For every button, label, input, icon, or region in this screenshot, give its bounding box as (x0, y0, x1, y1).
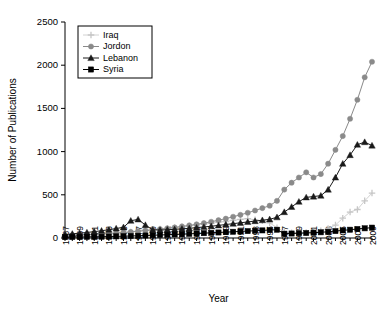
data-point-marker (187, 231, 192, 236)
data-point-marker (77, 234, 82, 239)
data-point-marker (281, 209, 288, 215)
data-point-marker (62, 235, 67, 240)
data-point-marker (260, 206, 265, 211)
data-point-marker (106, 234, 111, 239)
data-point-marker (88, 44, 93, 49)
data-point-marker (288, 204, 295, 210)
legend-label-jordon: Jordon (103, 41, 131, 51)
data-point-marker (172, 232, 177, 237)
data-point-marker (238, 212, 243, 217)
data-point-marker (143, 228, 148, 233)
data-point-marker (311, 175, 316, 180)
data-point-marker (223, 216, 228, 221)
data-point-marker (157, 232, 162, 237)
data-point-marker (252, 228, 257, 233)
data-point-marker (369, 142, 376, 148)
data-point-marker (304, 170, 309, 175)
y-axis-tick-label: 0 (53, 232, 58, 243)
data-point-marker (282, 187, 287, 192)
data-point-marker (231, 214, 236, 219)
data-point-marker (289, 180, 294, 185)
data-point-marker (260, 228, 265, 233)
publications-line-chart: 05001000150020002500Number of Publicatio… (0, 0, 381, 310)
data-point-marker (369, 59, 374, 64)
data-point-marker (311, 230, 316, 235)
data-point-marker (223, 230, 228, 235)
data-point-marker (333, 228, 338, 233)
data-point-marker (121, 234, 126, 239)
data-point-marker (194, 231, 199, 236)
data-point-marker (209, 230, 214, 235)
data-point-marker (165, 232, 170, 237)
data-point-marker (355, 226, 360, 231)
data-point-marker (296, 175, 301, 180)
series-line (65, 62, 372, 236)
data-point-marker (150, 233, 155, 238)
data-point-marker (88, 67, 93, 72)
y-axis-tick-label: 2000 (37, 59, 58, 70)
data-point-marker (333, 147, 338, 152)
data-point-marker (92, 234, 97, 239)
data-point-marker (274, 227, 279, 232)
data-point-marker (361, 139, 368, 145)
data-point-marker (84, 234, 89, 239)
data-point-marker (245, 228, 250, 233)
data-point-marker (296, 198, 303, 204)
data-point-marker (332, 174, 339, 180)
data-point-marker (282, 231, 287, 236)
data-point-marker (347, 116, 352, 121)
data-point-marker (296, 231, 301, 236)
data-point-marker (99, 234, 104, 239)
data-point-marker (114, 234, 119, 239)
data-point-marker (267, 203, 272, 208)
data-point-marker (274, 198, 279, 203)
data-point-marker (267, 227, 272, 232)
data-point-marker (318, 230, 323, 235)
data-point-marker (347, 227, 352, 232)
data-point-marker (231, 229, 236, 234)
data-point-marker (340, 228, 345, 233)
data-point-marker (326, 229, 331, 234)
y-axis-tick-label: 1500 (37, 102, 58, 113)
data-point-marker (216, 230, 221, 235)
data-point-marker (179, 232, 184, 237)
data-point-marker (128, 233, 133, 238)
chart-canvas: 05001000150020002500Number of Publicatio… (0, 0, 381, 310)
x-axis-tick-label: 1989 (221, 226, 231, 245)
data-point-marker (245, 210, 250, 215)
data-point-marker (143, 233, 148, 238)
data-point-marker (362, 75, 367, 80)
legend-label-syria: Syria (103, 64, 124, 74)
data-point-marker (304, 230, 309, 235)
data-point-marker (340, 133, 345, 138)
y-axis-tick-label: 1000 (37, 146, 58, 157)
data-point-marker (369, 225, 374, 230)
data-point-marker (289, 231, 294, 236)
x-axis-title: Year (208, 293, 229, 304)
data-point-marker (326, 161, 331, 166)
y-axis-tick-label: 500 (42, 189, 58, 200)
legend-label-lebanon: Lebanon (103, 53, 138, 63)
y-axis-tick-label: 2500 (37, 16, 58, 27)
data-point-marker (274, 214, 281, 220)
data-point-marker (238, 229, 243, 234)
data-point-marker (252, 208, 257, 213)
data-point-marker (318, 171, 323, 176)
data-point-marker (135, 233, 140, 238)
data-point-marker (70, 234, 75, 239)
y-axis-title: Number of Publications (7, 78, 18, 181)
data-point-marker (355, 97, 360, 102)
legend-label-iraq: Iraq (103, 30, 119, 40)
data-point-marker (201, 231, 206, 236)
data-point-marker (362, 226, 367, 231)
data-point-marker (325, 186, 332, 192)
data-point-marker (135, 216, 142, 222)
